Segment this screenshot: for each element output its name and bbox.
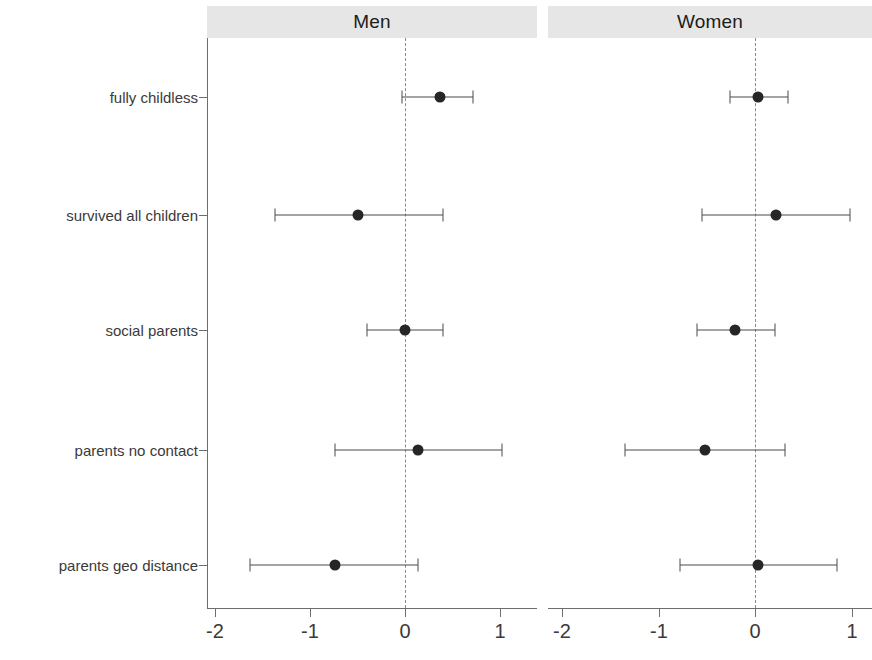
- point-estimate-marker: [400, 325, 411, 336]
- point-estimate-marker: [353, 210, 364, 221]
- interval-lower-cap: [729, 91, 730, 104]
- category-tick: [199, 215, 207, 216]
- panel-left-spine: [207, 38, 208, 608]
- category-label: survived all children: [66, 207, 198, 224]
- category-label: parents no contact: [75, 442, 198, 459]
- point-estimate-marker: [752, 92, 763, 103]
- panel-strip-men-label: Men: [353, 11, 391, 32]
- point-estimate-marker: [413, 445, 424, 456]
- category-tick: [199, 97, 207, 98]
- x-axis-tick: [659, 609, 660, 617]
- x-axis-line: [548, 608, 872, 609]
- interval-upper-cap: [473, 91, 474, 104]
- forest-plot: Men Women fully childlesssurvived all ch…: [0, 0, 872, 660]
- panel-strip-women: Women: [548, 6, 872, 38]
- interval-lower-cap: [334, 444, 335, 457]
- x-axis-tick-label: 1: [470, 620, 530, 643]
- panel-strip-women-label: Women: [677, 11, 743, 32]
- x-axis-line: [207, 608, 537, 609]
- interval-upper-cap: [418, 559, 419, 572]
- category-label: social parents: [105, 322, 198, 339]
- x-axis-tick: [562, 609, 563, 617]
- x-axis-tick-label: 0: [375, 620, 435, 643]
- category-tick: [199, 565, 207, 566]
- interval-upper-cap: [443, 209, 444, 222]
- interval-upper-cap: [501, 444, 502, 457]
- interval-lower-cap: [624, 444, 625, 457]
- point-estimate-marker: [699, 445, 710, 456]
- category-label: fully childless: [110, 89, 198, 106]
- interval-lower-cap: [679, 559, 680, 572]
- interval-lower-cap: [367, 324, 368, 337]
- interval-lower-cap: [250, 559, 251, 572]
- point-estimate-marker: [729, 325, 740, 336]
- point-estimate-marker: [329, 560, 340, 571]
- interval-upper-cap: [787, 91, 788, 104]
- category-tick: [199, 450, 207, 451]
- interval-upper-cap: [837, 559, 838, 572]
- x-axis-tick: [310, 609, 311, 617]
- zero-reference-line: [405, 38, 407, 608]
- x-axis-tick-label: -1: [629, 620, 689, 643]
- interval-lower-cap: [274, 209, 275, 222]
- x-axis-tick: [405, 609, 406, 617]
- interval-upper-cap: [775, 324, 776, 337]
- x-axis-tick: [215, 609, 216, 617]
- x-axis-tick: [755, 609, 756, 617]
- category-label: parents geo distance: [59, 557, 198, 574]
- interval-upper-cap: [443, 324, 444, 337]
- category-tick: [199, 330, 207, 331]
- interval-upper-cap: [784, 444, 785, 457]
- x-axis-tick-label: -2: [185, 620, 245, 643]
- x-axis-tick: [500, 609, 501, 617]
- interval-lower-cap: [402, 91, 403, 104]
- x-axis-tick-label: 0: [725, 620, 785, 643]
- interval-upper-cap: [849, 209, 850, 222]
- interval-lower-cap: [697, 324, 698, 337]
- x-axis-tick-label: -2: [532, 620, 592, 643]
- point-estimate-marker: [435, 92, 446, 103]
- panel-women: [548, 38, 872, 608]
- x-axis-tick-label: -1: [280, 620, 340, 643]
- interval-lower-cap: [701, 209, 702, 222]
- x-axis-tick: [852, 609, 853, 617]
- point-estimate-marker: [752, 560, 763, 571]
- panel-strip-men: Men: [207, 6, 537, 38]
- x-axis-tick-label: 1: [822, 620, 872, 643]
- zero-reference-line: [755, 38, 757, 608]
- panel-men: [207, 38, 537, 608]
- point-estimate-marker: [771, 210, 782, 221]
